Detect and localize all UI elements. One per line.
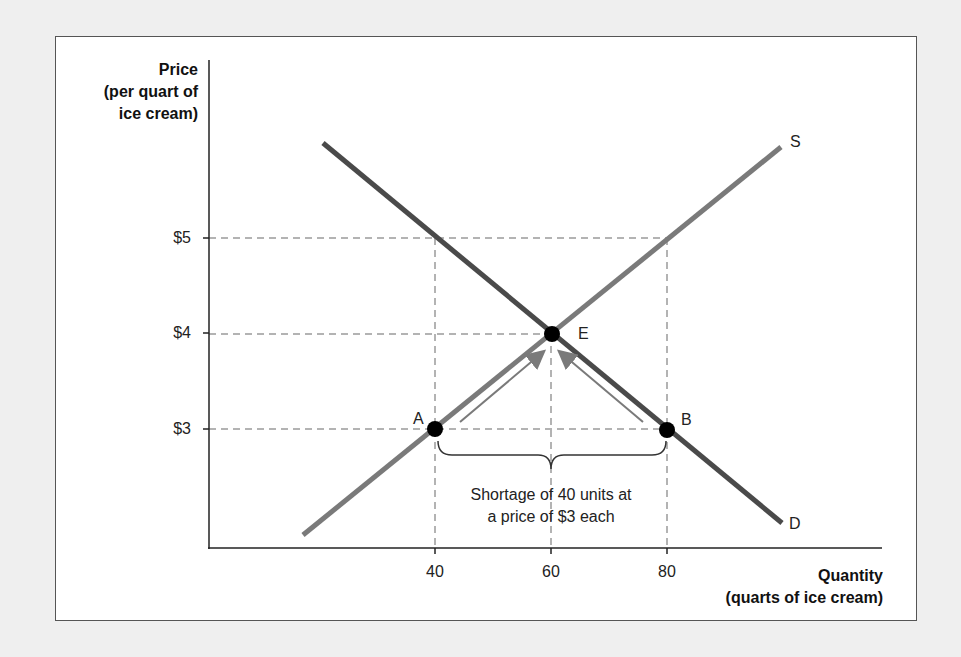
point-a-label: A: [413, 410, 424, 428]
y-tick-3: $3: [173, 420, 191, 438]
x-axis-title: Quantity (quarts of ice cream): [726, 565, 883, 609]
point-a-marker: [427, 421, 443, 437]
y-axis-title-line1: Price: [104, 59, 198, 81]
y-tick-4: $4: [173, 324, 191, 342]
shortage-brace: [438, 441, 666, 469]
x-tick-60: 60: [542, 563, 560, 581]
axes: [203, 60, 882, 554]
point-e-marker: [544, 326, 560, 342]
annotation-line1: Shortage of 40 units at: [471, 484, 632, 506]
y-axis-title-line3: ice cream): [104, 103, 198, 125]
supply-curve: [303, 147, 781, 535]
point-b-marker: [659, 422, 675, 438]
y-tick-5: $5: [173, 229, 191, 247]
x-axis-title-line2: (quarts of ice cream): [726, 587, 883, 609]
shortage-annotation: Shortage of 40 units at a price of $3 ea…: [471, 484, 632, 528]
point-e-label: E: [578, 325, 589, 343]
x-tick-80: 80: [658, 563, 676, 581]
x-tick-40: 40: [426, 563, 444, 581]
demand-label: D: [789, 515, 801, 533]
point-b-label: B: [681, 411, 692, 429]
arrow-b-to-e: [560, 352, 643, 422]
arrow-a-to-e: [460, 352, 543, 422]
y-axis-title: Price (per quart of ice cream): [104, 59, 198, 125]
annotation-line2: a price of $3 each: [471, 506, 632, 528]
supply-label: S: [790, 133, 801, 151]
x-axis-title-line1: Quantity: [726, 565, 883, 587]
y-axis-title-line2: (per quart of: [104, 81, 198, 103]
